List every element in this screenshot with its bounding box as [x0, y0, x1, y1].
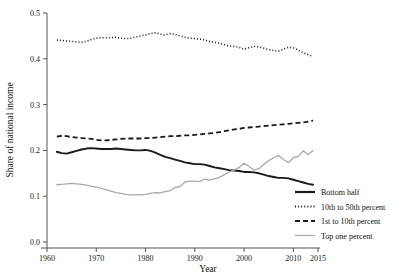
series-line-10th-to-50th-percent — [57, 33, 313, 57]
y-tick-label: 0.0 — [30, 238, 40, 247]
x-tick-label: 2000 — [236, 254, 252, 263]
legend-label: Top one percent — [321, 232, 373, 241]
legend-label: 10th to 50th percent — [321, 203, 386, 212]
x-tick-label: 2015 — [310, 254, 326, 263]
y-axis-title: Share of national income — [5, 82, 15, 177]
x-tick-label: 2010 — [285, 254, 301, 263]
series-line-bottom-half — [57, 148, 313, 185]
series-line-top-one-percent — [57, 150, 313, 194]
income-share-line-chart: 0.00.10.20.30.40.5 196019701980199020002… — [0, 0, 419, 279]
y-tick-label: 0.3 — [30, 101, 40, 110]
y-tick-label: 0.1 — [30, 192, 40, 201]
series-lines — [57, 33, 313, 195]
series-line-1st-to-10th-percent — [57, 121, 313, 141]
x-axis: 1960197019801990200020102015 — [39, 248, 326, 263]
x-axis-title: Year — [199, 264, 217, 274]
x-tick-label: 1970 — [88, 254, 104, 263]
y-tick-label: 0.5 — [30, 9, 40, 18]
chart-legend: Bottom half10th to 50th percent1st to 10… — [295, 188, 386, 241]
legend-label: 1st to 10th percent — [321, 217, 381, 226]
x-tick-label: 1980 — [138, 254, 154, 263]
x-tick-label: 1960 — [39, 254, 55, 263]
y-tick-label: 0.2 — [30, 146, 40, 155]
legend-label: Bottom half — [321, 188, 360, 197]
x-tick-label: 1990 — [187, 254, 203, 263]
y-axis: 0.00.10.20.30.40.5 — [30, 9, 47, 248]
y-tick-label: 0.4 — [30, 55, 40, 64]
chart-container: 0.00.10.20.30.40.5 196019701980199020002… — [0, 0, 419, 279]
